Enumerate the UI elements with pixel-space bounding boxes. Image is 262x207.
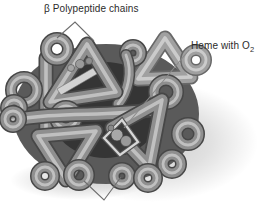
heme-label-subscript: 2 [250, 45, 254, 54]
heme-label-text: Heme with O [191, 40, 250, 51]
molecule-illustration [0, 0, 262, 207]
hemoglobin-diagram: β Polypeptide chains Heme with O2 [0, 0, 262, 207]
heme-label: Heme with O2 [191, 40, 254, 54]
beta-chains-label: β Polypeptide chains [44, 3, 138, 14]
